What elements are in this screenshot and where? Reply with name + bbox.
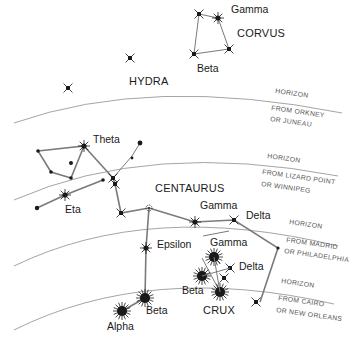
star-centaurus-alpha	[113, 302, 131, 320]
label-corvus-beta: Beta	[197, 62, 219, 74]
horizon-place-cairo-2: OR NEW ORLEANS	[276, 306, 343, 322]
horizon-label-lizard-point: HORIZON	[267, 152, 301, 164]
star-centaurus-small-5	[138, 141, 143, 146]
constellation-name-centaurus: CENTAURUS	[155, 182, 224, 194]
star-centaurus-small-8	[35, 206, 39, 210]
horizon-place-orkney-2: OR JUNEAU	[270, 115, 313, 128]
star-centaurus-iota	[109, 174, 118, 183]
label-centaurus-alpha: Alpha	[107, 320, 134, 332]
horizon-labels: HORIZON FROM ORKNEY OR JUNEAU HORIZON FR…	[261, 87, 350, 322]
star-crux-epsilon	[220, 274, 229, 283]
constellation-name-crux: CRUX	[203, 304, 235, 316]
constellation-name-hydra: HYDRA	[129, 75, 169, 87]
label-corvus-gamma: Gamma	[231, 3, 269, 15]
horizon-place-madrid-2: OR PHILADELPHIA	[284, 247, 350, 263]
star-centaurus-eta	[59, 189, 71, 201]
horizon-lines	[14, 96, 342, 330]
constellation-name-corvus: CORVUS	[237, 27, 285, 39]
label-centaurus-theta: Theta	[93, 133, 120, 145]
centaurus-lines	[37, 143, 278, 311]
horizon-place-lizard-point-2: OR WINNIPEG	[261, 180, 311, 194]
star-centaurus-small-4	[69, 161, 73, 165]
corvus-lines	[194, 14, 229, 54]
star-centaurus-small-3	[69, 176, 73, 180]
star-centaurus-epsilon	[140, 242, 152, 254]
star-centaurus-small-2	[49, 170, 53, 174]
star-centaurus-small-6	[131, 157, 134, 160]
label-crux-beta: Beta	[182, 284, 204, 296]
star-labels: Gamma Beta Theta Eta Gamma Delta Epsilon…	[65, 3, 271, 332]
star-hydra-1	[126, 54, 135, 63]
star-centaurus-lambda	[252, 298, 261, 307]
label-centaurus-eta: Eta	[65, 203, 81, 215]
star-centaurus-theta	[78, 140, 90, 152]
star-centaurus-gamma	[189, 216, 201, 228]
label-crux-gamma: Gamma	[210, 236, 248, 248]
horizon-label-cairo: HORIZON	[281, 277, 315, 289]
star-hydra-2	[64, 84, 73, 93]
star-centaurus-small-7	[101, 178, 105, 182]
label-centaurus-delta: Delta	[246, 209, 271, 221]
label-centaurus-gamma: Gamma	[200, 199, 238, 211]
label-centaurus-epsilon: Epsilon	[157, 238, 192, 250]
star-centaurus-small-9	[276, 246, 279, 249]
label-crux-delta: Delta	[239, 260, 264, 272]
horizon-place-cairo-1: FROM CAIRO	[278, 294, 325, 307]
horizon-label-orkney: HORIZON	[275, 87, 309, 99]
star-corvus-gamma	[212, 12, 224, 24]
horizon-label-madrid: HORIZON	[289, 218, 323, 230]
star-centaurus-small-1	[36, 149, 40, 153]
star-chart: HORIZON FROM ORKNEY OR JUNEAU HORIZON FR…	[0, 0, 357, 339]
label-centaurus-beta: Beta	[146, 304, 168, 316]
